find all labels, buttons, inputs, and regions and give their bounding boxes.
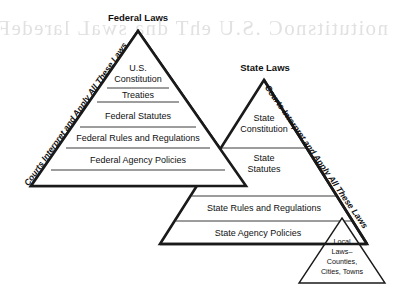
local-laws-line4: Cities, Towns	[321, 268, 363, 277]
local-laws-line2: Laws–	[332, 248, 353, 257]
legal-hierarchy-diagram: noitutitsnoC .S.U ehT dna swaL laredeF	[0, 0, 393, 288]
state-tier-state-statutes-line1: State	[253, 153, 274, 164]
state-laws-heading: State Laws	[240, 63, 290, 74]
federal-tier-us-constitution-line1: U.S.	[129, 63, 147, 74]
federal-tier-us-constitution-line2: Constitution	[114, 74, 162, 85]
state-tier-state-agency-policies: State Agency Policies	[215, 228, 302, 239]
state-tier-state-rules-and-regulations: State Rules and Regulations	[207, 203, 321, 214]
federal-laws-heading: Federal Laws	[108, 13, 168, 24]
state-tier-state-constitution-line2: Constitution	[240, 124, 288, 135]
state-tier-state-statutes-line2: Statutes	[247, 164, 280, 175]
federal-tier-federal-rules-and-regulations: Federal Rules and Regulations	[76, 133, 200, 144]
local-laws-line1: Local	[333, 238, 350, 247]
local-laws-line3: Counties,	[327, 258, 357, 267]
federal-tier-federal-agency-policies: Federal Agency Policies	[90, 155, 186, 166]
federal-tier-treaties: Treaties	[122, 90, 154, 101]
state-tier-state-constitution-line1: State	[253, 113, 274, 124]
federal-tier-federal-statutes: Federal Statutes	[105, 111, 171, 122]
